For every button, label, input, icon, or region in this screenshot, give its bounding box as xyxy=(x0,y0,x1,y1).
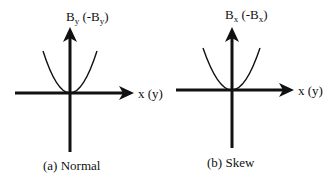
y-axis-label: By (-By) xyxy=(66,9,109,26)
y-axis-label: Bx (-Bx) xyxy=(225,7,268,24)
diagram-canvas: By (-By) x (y) (a) Normal Bx (-Bx) x (y)… xyxy=(0,0,335,184)
panel-caption: (a) Normal xyxy=(43,158,101,173)
panel-skew: Bx (-Bx) x (y) (b) Skew xyxy=(176,7,323,170)
panel-caption: (b) Skew xyxy=(207,155,255,170)
x-axis-label: x (y) xyxy=(298,83,323,98)
x-axis-label: x (y) xyxy=(138,86,163,101)
panel-normal: By (-By) x (y) (a) Normal xyxy=(15,9,163,173)
